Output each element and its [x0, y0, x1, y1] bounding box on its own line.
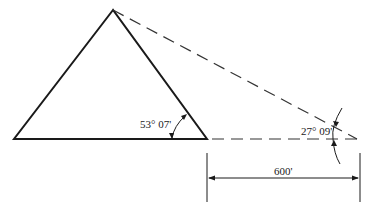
- distance-label: 600': [274, 165, 293, 177]
- near-angle-label: 53° 07': [140, 118, 171, 130]
- near-angle-arc: [172, 116, 185, 138]
- far-angle-arc: [333, 108, 342, 164]
- dimension-arrow-right: [352, 176, 359, 181]
- triangulation-diagram: 53° 07' 27° 09' 600': [0, 0, 374, 214]
- far-angle-arrow-bottom: [331, 140, 337, 146]
- triangle: [14, 10, 207, 139]
- far-angle-label: 27° 09': [301, 125, 332, 137]
- dimension-arrow-left: [208, 176, 215, 181]
